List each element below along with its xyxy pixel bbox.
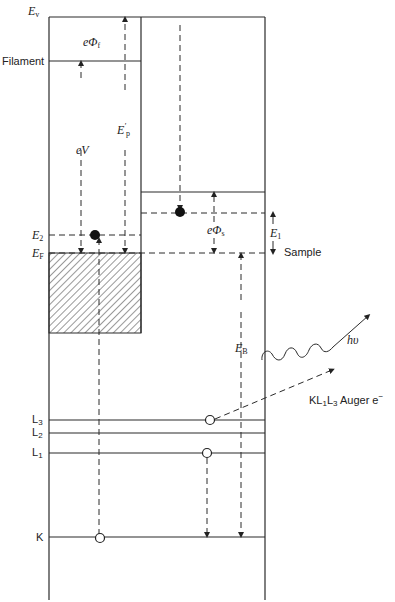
sample-label: Sample: [284, 247, 321, 258]
filament-work-function-label: eΦf: [83, 36, 100, 50]
k-label: K: [36, 532, 43, 543]
e1-label: E1: [270, 227, 281, 241]
e2-label: E2: [32, 229, 43, 243]
auger-electron-label: KL1L3 Auger e−: [309, 393, 383, 408]
hole-k: [96, 534, 105, 543]
electron-sample: [175, 207, 185, 217]
filament-label: Filament: [2, 56, 44, 67]
filled-states-hatch: [49, 253, 141, 333]
fermi-label: EF: [32, 247, 44, 261]
sample-work-function-label: eΦs: [207, 224, 225, 238]
l1-label: L1: [32, 447, 43, 460]
electron-e2: [90, 230, 100, 240]
hole-l1: [203, 449, 212, 458]
primary-energy-label: E'p: [117, 123, 130, 138]
core-levels: [49, 420, 265, 537]
l2-label: L2: [32, 427, 43, 440]
energy-diagram-canvas: [0, 0, 395, 602]
photon-label: hυ: [347, 334, 359, 346]
accelerating-voltage-label: eV: [76, 144, 89, 156]
hole-l3: [206, 416, 215, 425]
vacuum-level-label: Ev: [28, 5, 39, 19]
binding-energy-label: EB: [235, 342, 248, 356]
